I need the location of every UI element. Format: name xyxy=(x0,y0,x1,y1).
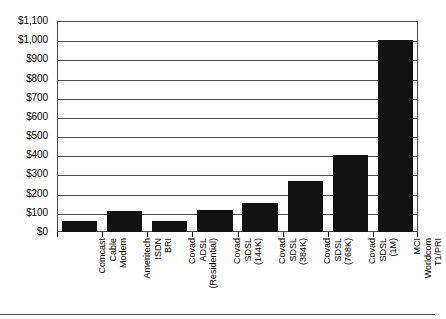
bar xyxy=(107,211,142,232)
x-axis-category-label: ComcastCableModem xyxy=(97,238,131,312)
y-axis-tick-label: $600 xyxy=(0,112,52,122)
x-axis-category-label: MCIWorldcomT1/PRI xyxy=(412,238,446,312)
x-axis-category-line: Covad xyxy=(187,238,198,312)
bars-layer xyxy=(57,21,418,232)
x-axis-labels: ComcastCableModemAmeritechISDNBRICovadAD… xyxy=(57,238,418,312)
y-axis-tick-label: $400 xyxy=(0,150,52,160)
x-axis-category-line: Covad xyxy=(322,238,333,312)
x-axis-tick xyxy=(238,232,239,237)
bar xyxy=(62,221,97,232)
x-axis-category-line: Covad xyxy=(232,238,243,312)
bar xyxy=(197,210,232,232)
x-axis-category-line: (1M) xyxy=(388,238,399,312)
x-axis-category-label: CovadADSL(Residential) xyxy=(187,238,221,312)
y-axis-tick-label: $1,100 xyxy=(0,16,52,26)
x-axis-tick xyxy=(57,232,58,237)
x-axis-category-line: Comcast xyxy=(97,238,108,312)
x-axis-category-line: SDSL xyxy=(333,238,344,312)
x-axis-tick xyxy=(192,232,193,237)
x-axis-category-line: (384K) xyxy=(298,238,309,312)
x-axis-tick xyxy=(147,232,148,237)
x-axis-category-label: CovadSDSL(768K) xyxy=(322,238,356,312)
x-axis-category-line: (768K) xyxy=(343,238,354,312)
x-axis-category-line: Cable xyxy=(107,238,118,312)
y-axis-tick-label: $0 xyxy=(0,227,52,237)
bottom-divider xyxy=(0,314,435,315)
y-axis-tick-label: $700 xyxy=(0,93,52,103)
x-axis-category-label: CovadSDSL(1M) xyxy=(367,238,401,312)
x-axis-category-line: ISDN xyxy=(152,238,163,312)
x-axis-category-line: BRI xyxy=(163,238,174,312)
bar xyxy=(378,40,413,232)
y-axis-tick-label: $300 xyxy=(0,169,52,179)
x-axis-ticks xyxy=(57,232,418,237)
y-axis-tick-label: $1,000 xyxy=(0,35,52,45)
x-axis-category-line: Covad xyxy=(277,238,288,312)
bar xyxy=(242,203,277,232)
x-axis-tick xyxy=(102,232,103,237)
y-axis-tick-label: $500 xyxy=(0,131,52,141)
x-axis-category-line: SDSL xyxy=(378,238,389,312)
x-axis-category-label: CovadSDSL(144K) xyxy=(232,238,266,312)
x-axis-category-line: Worldcom xyxy=(423,238,434,312)
y-axis: $1,100$1,000$900$800$700$600$500$400$300… xyxy=(0,0,52,319)
x-axis-category-line: (Residential) xyxy=(208,238,219,312)
x-axis-category-label: CovadSDSL(384K) xyxy=(277,238,311,312)
x-axis-category-line: (144K) xyxy=(253,238,264,312)
x-axis-tick xyxy=(417,232,418,237)
x-axis-category-line: Ameritech xyxy=(142,238,153,312)
y-axis-tick-label: $100 xyxy=(0,208,52,218)
x-axis-category-line: Modem xyxy=(118,238,129,312)
y-axis-tick-label: $900 xyxy=(0,54,52,64)
y-axis-tick-label: $800 xyxy=(0,74,52,84)
x-axis-category-line: SDSL xyxy=(242,238,253,312)
x-axis-tick xyxy=(373,232,374,237)
x-axis-tick xyxy=(328,232,329,237)
bar xyxy=(333,155,368,232)
y-axis-tick-label: $200 xyxy=(0,189,52,199)
x-axis-tick xyxy=(283,232,284,237)
bar xyxy=(152,221,187,232)
x-axis-category-label: AmeritechISDNBRI xyxy=(142,238,176,312)
x-axis-category-line: ADSL xyxy=(197,238,208,312)
x-axis-category-line: Covad xyxy=(367,238,378,312)
x-axis-category-line: SDSL xyxy=(288,238,299,312)
bar xyxy=(288,181,323,232)
x-axis-category-line: T1/PRI xyxy=(433,238,444,312)
x-axis-category-line: MCI xyxy=(412,238,423,312)
